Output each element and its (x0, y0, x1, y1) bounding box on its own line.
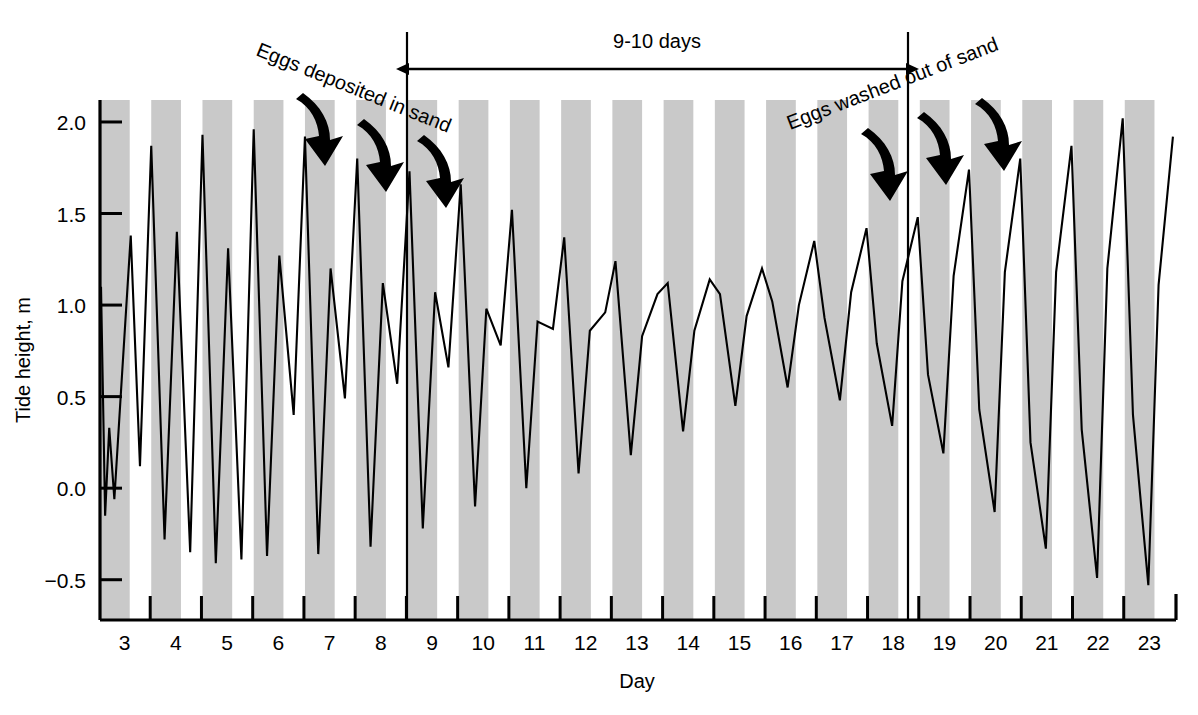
x-tick-label: 18 (881, 631, 904, 654)
night-band (407, 100, 437, 620)
x-tick-label: 13 (625, 631, 648, 654)
x-tick-label: 7 (324, 631, 336, 654)
x-tick-label: 3 (119, 631, 131, 654)
y-tick-label: 0.0 (57, 477, 86, 500)
y-axis-title: Tide height, m (12, 297, 34, 423)
night-band (664, 100, 694, 620)
x-tick-label: 9 (426, 631, 438, 654)
x-tick-label: 21 (1035, 631, 1058, 654)
x-tick-label: 5 (221, 631, 233, 654)
y-tick-label: 2.0 (57, 111, 86, 134)
y-tick-label: 0.5 (57, 386, 86, 409)
night-band (561, 100, 591, 620)
x-tick-label: 22 (1086, 631, 1109, 654)
x-tick-label: 19 (933, 631, 956, 654)
x-tick-label: 4 (170, 631, 182, 654)
x-tick-label: 12 (574, 631, 597, 654)
night-band (971, 100, 1001, 620)
eggs-deposited-label: Eggs deposited in sand (254, 38, 455, 136)
x-tick-label: 23 (1138, 631, 1161, 654)
y-axis-tick-labels: −0.50.00.51.01.52.0 (45, 111, 86, 592)
tide-chart-svg: −0.50.00.51.01.52.0 34567891011121314151… (0, 0, 1198, 715)
x-tick-label: 16 (779, 631, 802, 654)
x-tick-label: 20 (984, 631, 1007, 654)
y-tick-label: 1.0 (57, 294, 86, 317)
night-band (612, 100, 642, 620)
x-axis-title: Day (619, 670, 655, 692)
x-tick-label: 10 (472, 631, 495, 654)
night-band (151, 100, 181, 620)
y-tick-label: −0.5 (45, 569, 86, 592)
x-tick-label: 15 (728, 631, 751, 654)
night-shading-bands (100, 100, 1154, 620)
x-tick-label: 11 (524, 631, 546, 654)
x-tick-label: 17 (830, 631, 853, 654)
span-label: 9-10 days (613, 30, 701, 52)
x-tick-label: 6 (272, 631, 284, 654)
night-band (100, 100, 130, 620)
x-axis-tick-labels: 34567891011121314151617181920212223 (119, 631, 1161, 654)
tide-chart-figure: −0.50.00.51.01.52.0 34567891011121314151… (0, 0, 1198, 715)
x-tick-label: 14 (677, 631, 701, 654)
x-tick-label: 8 (375, 631, 387, 654)
y-tick-label: 1.5 (57, 203, 86, 226)
